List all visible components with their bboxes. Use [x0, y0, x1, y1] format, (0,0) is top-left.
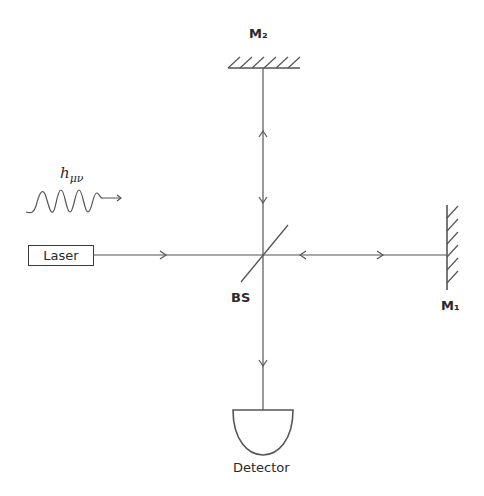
mirror-m2-hatch	[228, 57, 300, 68]
wave-symbol: h	[60, 164, 70, 182]
wave-subscript: μν	[70, 172, 84, 185]
laser-label: Laser	[43, 248, 78, 263]
beam-splitter-label: BS	[231, 290, 250, 305]
detector-shape	[233, 410, 293, 455]
mirror-m1-hatch	[447, 206, 458, 283]
beam-splitter	[241, 225, 288, 282]
laser-box: Laser	[28, 245, 94, 266]
detector-label: Detector	[233, 460, 290, 475]
mirror-m1-label: M₁	[441, 298, 460, 313]
gravitational-wave-icon	[26, 190, 120, 213]
mirror-m2-label: M₂	[249, 26, 268, 41]
wave-label: hμν	[60, 164, 84, 185]
